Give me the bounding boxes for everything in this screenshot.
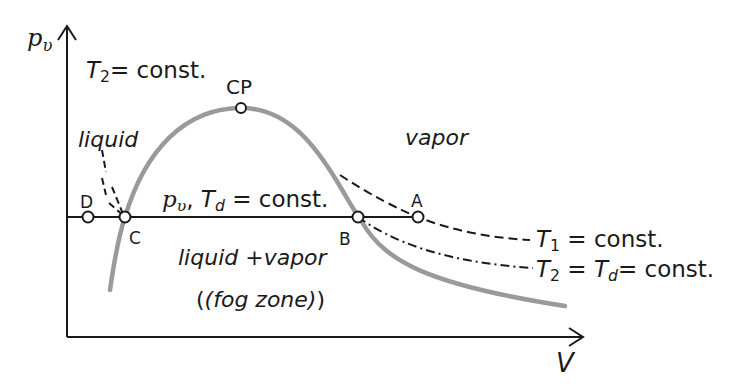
- point-cp: [236, 103, 246, 113]
- isotherm-t2-td-label: T2 = Td= const.: [536, 256, 714, 282]
- point-a-label: A: [411, 191, 423, 211]
- point-b: [353, 212, 364, 223]
- isotherm-t2-liquid-upper: [102, 150, 106, 172]
- isotherm-t2-liquid-lower: [112, 187, 123, 214]
- region-liquid-label: liquid: [78, 127, 138, 152]
- region-vapor-label: vapor: [405, 125, 468, 150]
- point-d-label: D: [80, 192, 93, 212]
- point-b-label: B: [339, 229, 351, 249]
- point-d: [83, 212, 94, 223]
- isotherm-t2-liquid-label: T2= const.: [86, 57, 206, 83]
- point-c: [120, 212, 131, 223]
- isotherm-t1-label: T1 = const.: [536, 226, 664, 252]
- region-fog-zone-label: ((fog zone)): [196, 287, 325, 312]
- isotherm-t2-td: [358, 217, 533, 268]
- region-mixed-label: liquid +vapor: [178, 245, 327, 270]
- y-axis-label: pυ: [27, 24, 52, 52]
- point-c-label: C: [129, 228, 141, 248]
- x-axis-label: V: [556, 348, 574, 378]
- isobar-label: pυ, Td = const.: [162, 186, 328, 212]
- point-a: [413, 212, 424, 223]
- critical-point-label: CP: [226, 75, 252, 99]
